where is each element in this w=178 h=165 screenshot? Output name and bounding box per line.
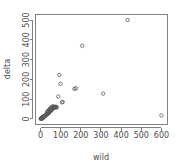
y-tick-label: 200	[22, 72, 31, 87]
y-tick-label: 0	[22, 116, 31, 121]
y-axis-title: delta	[3, 59, 12, 79]
y-tick-label: 300	[22, 52, 31, 67]
x-tick-label: 300	[93, 131, 108, 140]
scatter-plot-figure: 0100200300400500 0100200300400500600 wil…	[0, 0, 178, 165]
x-tick-label: 100	[53, 131, 68, 140]
x-tick-label: 500	[134, 131, 149, 140]
plot-canvas: 0100200300400500 0100200300400500600 wil…	[0, 0, 178, 165]
y-tick-label: 100	[22, 92, 31, 107]
x-tick-label: 200	[73, 131, 88, 140]
x-axis-title: wild	[93, 153, 109, 162]
y-tick-label: 400	[22, 32, 31, 47]
x-tick-label: 600	[154, 131, 169, 140]
y-tick-label: 500	[22, 12, 31, 27]
x-tick-label: 0	[38, 131, 43, 140]
x-tick-label: 400	[114, 131, 129, 140]
